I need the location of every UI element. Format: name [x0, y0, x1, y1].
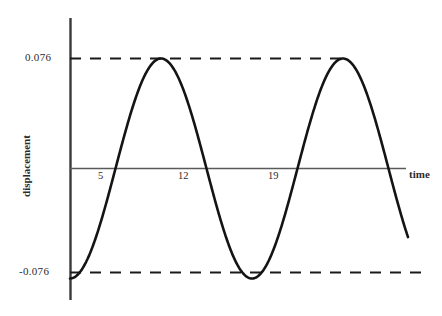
x-axis-tick-5: 5: [98, 170, 103, 181]
chart-plot-area: [0, 0, 442, 316]
x-axis-tick-12: 12: [178, 170, 189, 181]
x-axis-tick-19: 19: [268, 170, 279, 181]
y-axis-label-max: 0.076: [25, 51, 51, 63]
y-axis-title: displacement: [20, 121, 32, 211]
chart-figure: 0.076 -0.076 5 12 19 time displacement: [0, 0, 442, 316]
x-axis-title: time: [409, 168, 430, 180]
y-axis-label-min: -0.076: [19, 265, 49, 277]
